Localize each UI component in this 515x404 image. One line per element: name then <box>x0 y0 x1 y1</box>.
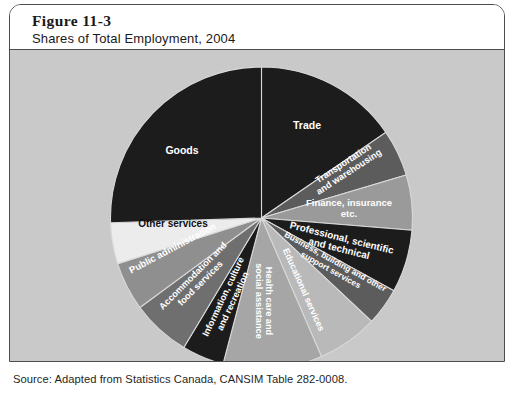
source-note: Source: Adapted from Statistics Canada, … <box>13 373 347 385</box>
figure-frame: Figure 11-3 Shares of Total Employment, … <box>9 4 505 362</box>
figure-page: Figure 11-3 Shares of Total Employment, … <box>0 0 515 404</box>
figure-caption-band: Figure 11-3 Shares of Total Employment, … <box>10 5 504 50</box>
pie-slice-label: Goods <box>165 144 198 156</box>
chart-plot-area: TradeTransportationand warehousingFinanc… <box>10 50 504 361</box>
figure-title: Shares of Total Employment, 2004 <box>32 30 504 48</box>
pie-slice-label: Other services <box>138 218 208 229</box>
figure-number: Figure 11-3 <box>32 11 504 30</box>
pie-slice-label: Trade <box>293 119 321 131</box>
pie-chart: TradeTransportationand warehousingFinanc… <box>10 50 505 361</box>
pie-slice-label: Health care andsocial assistance <box>254 263 275 339</box>
